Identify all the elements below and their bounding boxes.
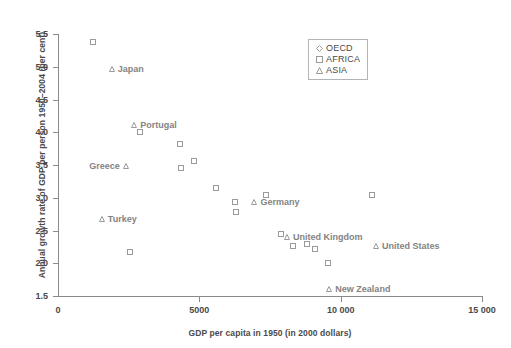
point-label-germany: Germany — [260, 197, 299, 207]
y-axis-tick — [53, 198, 58, 199]
point-label-portugal: Portugal — [140, 120, 177, 130]
y-axis-tick — [53, 132, 58, 133]
point-label-united-kingdom: United Kingdom — [293, 232, 363, 242]
legend-item-label: AFRICA — [326, 54, 360, 65]
data-point-africa — [369, 192, 375, 198]
y-axis-tick-label: 1.5 — [18, 291, 48, 301]
data-point-africa — [178, 165, 184, 171]
data-point-africa — [127, 249, 133, 255]
y-axis-tick — [53, 263, 58, 264]
data-point-africa — [90, 39, 96, 45]
triangle-icon — [313, 67, 326, 74]
y-axis-tick — [53, 34, 58, 35]
data-point-asia — [123, 163, 129, 169]
square-icon — [313, 56, 326, 63]
data-point-asia — [131, 122, 137, 128]
legend-item-asia: ASIA — [313, 65, 360, 76]
x-axis-tick-label: 10 000 — [306, 305, 376, 315]
point-label-greece: Greece — [89, 161, 120, 171]
legend-item-label: OECD — [326, 43, 353, 54]
x-axis-tick-label: 15 000 — [447, 305, 511, 315]
data-point-africa — [213, 185, 219, 191]
point-label-japan: Japan — [118, 64, 144, 74]
legend-item-africa: AFRICA — [313, 54, 360, 65]
point-label-turkey: Turkey — [108, 214, 137, 224]
y-axis-tick — [53, 100, 58, 101]
point-label-united-states: United States — [382, 241, 440, 251]
y-axis-tick-label: 3.5 — [18, 160, 48, 170]
y-axis-tick — [53, 231, 58, 232]
data-point-africa — [232, 199, 238, 205]
data-point-africa — [137, 129, 143, 135]
data-point-asia — [251, 199, 257, 205]
x-axis-tick-label: 5000 — [164, 305, 234, 315]
data-point-africa — [233, 209, 239, 215]
y-axis-tick — [53, 296, 58, 297]
x-axis-title: GDP per capita in 1950 (in 2000 dollars) — [58, 328, 482, 338]
y-axis-tick-label: 5.5 — [18, 29, 48, 39]
data-point-asia — [109, 66, 115, 72]
x-axis-tick — [199, 297, 200, 302]
point-label-new-zealand: New Zealand — [335, 284, 390, 294]
data-point-africa — [191, 158, 197, 164]
x-axis-tick — [482, 297, 483, 302]
y-axis-tick — [53, 67, 58, 68]
x-axis-line — [58, 296, 483, 297]
y-axis-tick-label: 4.0 — [18, 127, 48, 137]
y-axis-tick-label: 4.5 — [18, 95, 48, 105]
chart-legend: OECDAFRICAASIA — [308, 39, 368, 80]
y-axis-tick-label: 2.5 — [18, 226, 48, 236]
data-point-asia — [99, 216, 105, 222]
scatter-chart: Annual growth rate of GDP per person 195… — [0, 0, 511, 348]
data-point-africa — [278, 231, 284, 237]
legend-item-label: ASIA — [326, 65, 347, 76]
data-point-africa — [312, 246, 318, 252]
y-axis-tick-label: 2.0 — [18, 258, 48, 268]
x-axis-tick-label: 0 — [23, 305, 93, 315]
data-point-africa — [290, 243, 296, 249]
data-point-africa — [325, 260, 331, 266]
y-axis-tick-label: 3.0 — [18, 193, 48, 203]
y-axis-tick-label: 5.0 — [18, 62, 48, 72]
data-point-asia — [373, 243, 379, 249]
legend-item-oecd: OECD — [313, 43, 360, 54]
y-axis-line — [58, 34, 59, 297]
x-axis-tick — [341, 297, 342, 302]
data-point-asia — [326, 286, 332, 292]
y-axis-tick — [53, 165, 58, 166]
diamond-icon — [313, 45, 326, 52]
data-point-africa — [177, 141, 183, 147]
data-point-asia — [284, 234, 290, 240]
